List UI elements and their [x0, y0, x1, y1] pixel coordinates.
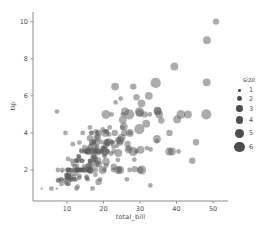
data-point — [94, 139, 100, 145]
size-legend: size 123456 — [233, 76, 265, 155]
legend-title: size — [233, 76, 265, 84]
data-point — [129, 147, 138, 156]
data-point — [88, 158, 93, 163]
data-point — [166, 130, 172, 136]
legend-entry: 5 — [233, 126, 265, 140]
data-point — [121, 108, 129, 116]
data-point — [104, 163, 109, 168]
y-tick-label: 10 — [20, 18, 28, 26]
data-point — [158, 117, 164, 123]
data-point — [118, 96, 123, 101]
data-point — [147, 112, 152, 117]
y-axis-label: tip — [9, 101, 17, 110]
data-point — [109, 151, 114, 156]
legend-size-dot — [238, 89, 240, 91]
x-axis-label: total_bill — [33, 213, 228, 221]
legend-entry: 1 — [233, 87, 265, 94]
data-point — [133, 94, 139, 100]
data-point — [116, 157, 121, 162]
data-point — [56, 178, 61, 183]
data-point — [153, 135, 161, 143]
legend-entry-label: 2 — [249, 95, 253, 103]
data-point — [56, 168, 61, 173]
data-point — [99, 140, 104, 145]
legend-entry-label: 1 — [249, 86, 253, 94]
data-point — [77, 154, 82, 159]
data-point — [93, 172, 98, 177]
data-point — [77, 158, 82, 163]
data-point — [201, 109, 211, 119]
y-tick-label: 6 — [24, 92, 28, 100]
data-point — [132, 166, 138, 172]
data-point — [56, 187, 58, 189]
data-point — [95, 179, 101, 185]
data-point — [65, 168, 70, 173]
data-point — [132, 157, 137, 162]
plot-canvas: 1020304050246810 — [0, 0, 267, 234]
data-point — [115, 149, 123, 157]
data-point — [213, 18, 219, 24]
data-point — [85, 177, 90, 182]
data-point — [128, 131, 133, 136]
legend-entry: 2 — [233, 94, 265, 103]
data-point — [76, 168, 81, 173]
data-point — [120, 125, 125, 130]
x-tick-label: 30 — [136, 205, 144, 213]
x-tick-label: 40 — [172, 205, 180, 213]
data-point — [79, 149, 84, 154]
data-point — [148, 183, 153, 188]
data-point — [63, 131, 68, 136]
data-point — [168, 148, 176, 156]
data-point — [80, 131, 85, 136]
data-point — [130, 83, 136, 89]
legend-entry-label: 4 — [249, 116, 253, 124]
data-point — [61, 170, 63, 172]
data-point — [176, 149, 181, 154]
data-point — [101, 148, 109, 156]
x-tick-label: 20 — [99, 205, 107, 213]
data-point — [111, 83, 119, 91]
y-tick-label: 8 — [24, 55, 28, 63]
data-point — [203, 36, 211, 44]
data-point — [189, 158, 195, 164]
data-point — [85, 149, 90, 154]
data-point — [127, 168, 132, 173]
data-point — [55, 109, 60, 114]
data-point — [137, 167, 143, 173]
data-point — [77, 175, 82, 180]
legend-entry-label: 6 — [249, 143, 253, 151]
data-point — [92, 149, 97, 154]
legend-size-dot — [237, 96, 242, 101]
data-point — [112, 130, 118, 136]
legend-size-dot — [236, 105, 242, 111]
data-point — [154, 107, 162, 115]
data-point — [72, 164, 77, 169]
scatter-plot-figure: 1020304050246810 total_bill tip size 123… — [0, 0, 267, 234]
data-point — [74, 186, 79, 191]
data-point — [135, 107, 144, 116]
x-tick-label: 10 — [63, 205, 71, 213]
data-point — [117, 139, 123, 145]
legend-entries: 123456 — [233, 87, 265, 155]
data-point — [90, 153, 96, 159]
legend-entry-label: 5 — [249, 129, 253, 137]
data-point — [104, 139, 110, 145]
data-point — [145, 92, 153, 100]
data-point — [138, 99, 146, 107]
legend-entry: 4 — [233, 114, 265, 126]
data-point — [90, 186, 95, 191]
data-point — [65, 182, 70, 187]
data-point — [102, 129, 110, 137]
legend-entry-label: 3 — [249, 105, 253, 113]
data-point — [124, 141, 130, 147]
data-point — [70, 142, 75, 147]
data-point — [111, 144, 116, 149]
legend-entry: 6 — [233, 140, 265, 155]
data-point — [171, 63, 179, 71]
x-tick-label: 50 — [209, 205, 217, 213]
data-point — [96, 130, 102, 136]
data-point — [77, 140, 82, 145]
y-tick-label: 2 — [24, 166, 28, 174]
data-point — [137, 146, 145, 154]
data-point — [107, 125, 112, 130]
